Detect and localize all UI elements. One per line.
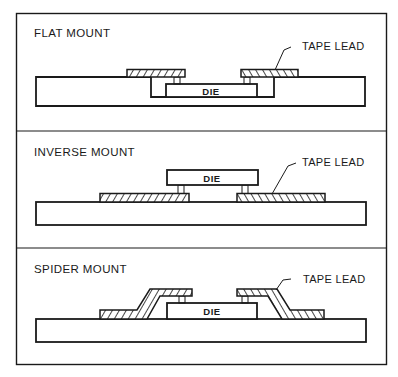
panel-flat-mount: FLAT MOUNT DIE TAPE LEAD [34,27,365,106]
bond-bump [178,185,184,194]
panel-title: FLAT MOUNT [34,27,110,39]
bond-bump [179,296,185,303]
bond-bump [242,185,248,194]
die-label: DIE [203,306,220,317]
bond-bump [244,77,250,84]
callout-leader [272,163,296,194]
bond-bump [174,77,180,84]
callout-label: TAPE LEAD [302,40,364,52]
callout-leader [276,279,291,290]
tape-lead-right [237,194,325,203]
panel-inverse-mount: INVERSE MOUNT DIE TAPE LEAD [34,146,366,225]
panel-title: SPIDER MOUNT [34,263,127,275]
callout-label: TAPE LEAD [303,273,365,285]
tape-lead-left [127,70,185,78]
substrate [36,202,366,225]
die-label: DIE [202,86,219,97]
mounting-diagram: FLAT MOUNT DIE TAPE LEAD INVERSE MOUNT D… [0,0,398,377]
bond-bump [242,296,248,303]
panel-title: INVERSE MOUNT [34,146,135,158]
callout-label: TAPE LEAD [302,156,364,168]
substrate [36,319,366,342]
tape-lead-right [241,70,298,78]
callout-leader [275,47,291,70]
panel-spider-mount: SPIDER MOUNT DIE TAPE LEAD [34,263,366,342]
tape-lead-left [100,194,189,203]
die-label: DIE [203,173,220,184]
